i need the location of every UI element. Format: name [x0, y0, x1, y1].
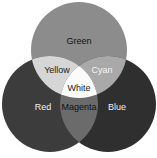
venn-diagram: Green Yellow Cyan White Red Magenta Blue	[0, 0, 157, 158]
label-red: Red	[35, 102, 52, 112]
label-yellow: Yellow	[44, 65, 70, 75]
label-cyan: Cyan	[91, 65, 112, 75]
label-green: Green	[66, 36, 91, 46]
label-magenta: Magenta	[61, 102, 96, 112]
label-blue: Blue	[108, 102, 126, 112]
label-white: White	[67, 83, 90, 93]
